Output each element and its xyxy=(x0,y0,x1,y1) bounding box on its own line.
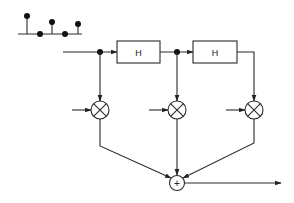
delay-block-1: H xyxy=(117,41,160,63)
product-line-1 xyxy=(100,119,171,178)
delay-block-1-label: H xyxy=(135,48,142,58)
delay-block-2: H xyxy=(193,41,237,63)
summer-symbol: + xyxy=(174,178,180,189)
fir-filter-diagram: H H + xyxy=(0,0,294,203)
multiplier-2-icon xyxy=(168,101,186,119)
multiplier-1-icon xyxy=(91,101,109,119)
multiplier-3-icon xyxy=(245,101,263,119)
delay-block-2-label: H xyxy=(212,48,219,58)
input-sequence-icon xyxy=(18,13,82,37)
product-line-3 xyxy=(183,119,254,178)
summer-icon: + xyxy=(170,176,185,191)
